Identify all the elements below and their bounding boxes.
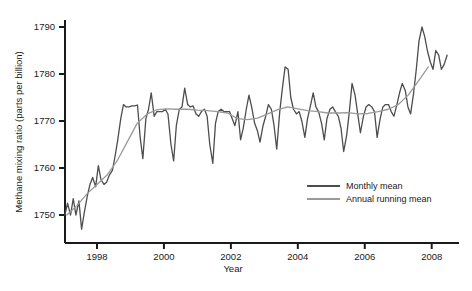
y-axis-title: Methane mixing ratio (parts per billion)	[13, 51, 24, 213]
y-tick-label-1770: 1770	[34, 115, 55, 126]
legend-label-monthly-mean: Monthly mean	[346, 181, 403, 191]
y-tick-label-1760: 1760	[34, 162, 55, 173]
y-tick-label-1790: 1790	[34, 21, 55, 32]
legend-label-annual-running-mean: Annual running mean	[346, 194, 432, 204]
methane-trend-chart: 17501760177017801790 1998200020022004200…	[0, 0, 472, 291]
y-tick-label-1750: 1750	[34, 209, 55, 220]
x-axis-title: Year	[223, 263, 242, 274]
x-tick-label-2002: 2002	[220, 251, 241, 262]
x-tick-label-1998: 1998	[86, 251, 107, 262]
x-tick-label-2006: 2006	[354, 251, 375, 262]
x-tick-label-2004: 2004	[287, 251, 308, 262]
x-tick-label-2000: 2000	[153, 251, 174, 262]
chart-canvas: 17501760177017801790 1998200020022004200…	[0, 0, 472, 291]
chart-background	[0, 0, 472, 291]
x-tick-label-2008: 2008	[421, 251, 442, 262]
y-tick-label-1780: 1780	[34, 68, 55, 79]
